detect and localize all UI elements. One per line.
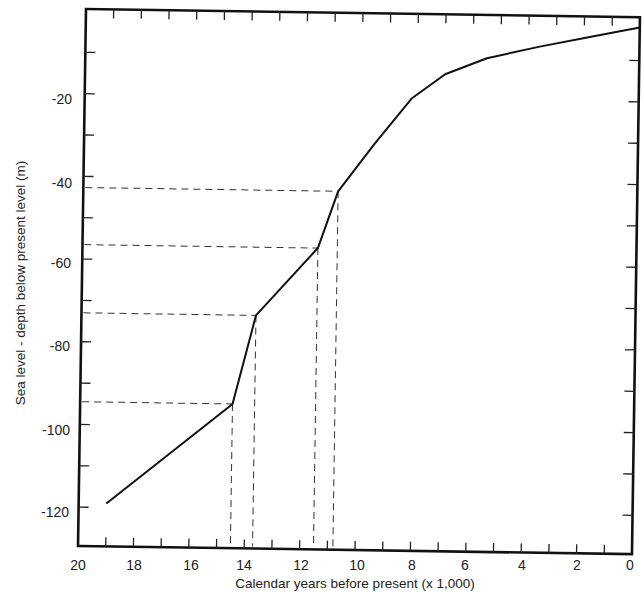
plot-border — [78, 9, 640, 554]
x-tick-label: 14 — [236, 557, 252, 573]
vertical-dashed-guide — [333, 191, 338, 547]
x-tick-label: 18 — [126, 557, 142, 573]
y-tick-label: -60 — [51, 255, 71, 271]
vertical-dashed-guide — [230, 404, 232, 546]
x-tick-label: 12 — [293, 557, 309, 573]
x-tick-label: 10 — [349, 557, 365, 573]
y-tick-label: -20 — [52, 91, 72, 107]
y-tick-label: -80 — [50, 338, 70, 354]
horizontal-dashed-guide — [84, 245, 317, 248]
axis-ticks — [78, 9, 640, 554]
sea-level-chart: 20181614121086420 -20-40-60-80-100-120 C… — [0, 0, 644, 597]
x-tick-labels: 20181614121086420 — [70, 557, 634, 573]
y-tick-label: -100 — [42, 422, 70, 438]
horizontal-dashed-guide — [85, 188, 338, 192]
vertical-dashed-guide — [313, 248, 317, 547]
y-tick-label: -40 — [52, 175, 72, 191]
x-axis-title: Calendar years before present (x 1,000) — [235, 576, 474, 591]
horizontal-dashed-guide — [83, 313, 255, 316]
sea-level-curve — [106, 20, 639, 512]
x-tick-label: 4 — [518, 557, 526, 573]
x-tick-label: 2 — [573, 557, 581, 573]
y-axis-title: Sea level - depth below present level (m… — [13, 161, 28, 406]
x-tick-label: 6 — [461, 557, 469, 573]
x-tick-label: 20 — [70, 557, 86, 573]
vertical-dashed-guide — [253, 315, 256, 546]
x-tick-label: 8 — [408, 557, 416, 573]
x-tick-label: 0 — [626, 557, 634, 573]
sea-level-line — [106, 20, 639, 512]
y-tick-label: -120 — [41, 504, 69, 520]
y-tick-labels: -20-40-60-80-100-120 — [41, 91, 72, 520]
x-tick-label: 16 — [183, 557, 199, 573]
plot-frame — [78, 9, 640, 554]
horizontal-dashed-guide — [82, 402, 232, 404]
